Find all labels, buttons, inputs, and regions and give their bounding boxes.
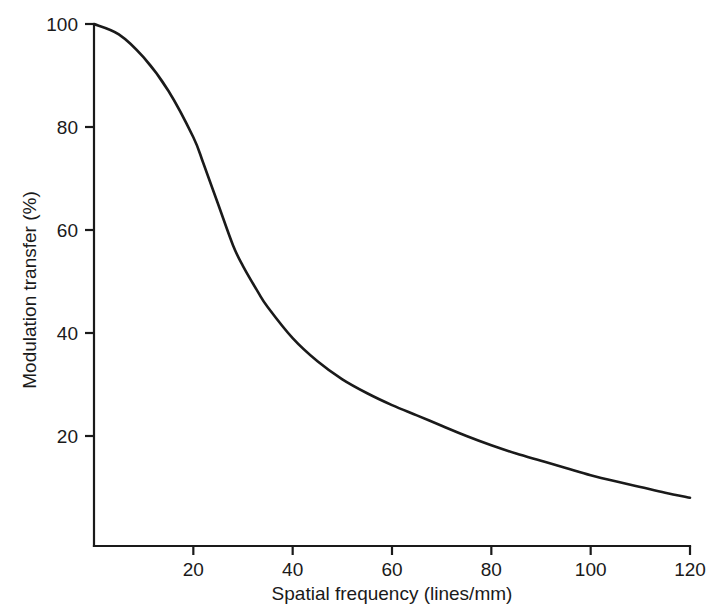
y-tick-label-100: 100 (46, 14, 78, 35)
y-tick-label-20: 20 (57, 426, 78, 447)
data-series-group (94, 24, 690, 498)
x-tick-label-group: 20406080100120 (183, 559, 706, 580)
y-tick-label-80: 80 (57, 117, 78, 138)
x-axis-title: Spatial frequency (lines/mm) (272, 583, 513, 604)
x-tick-label-80: 80 (481, 559, 502, 580)
y-axis-title: Modulation transfer (%) (19, 191, 40, 388)
chart-canvas: 20406080100 20406080100120 Spatial frequ… (0, 0, 724, 616)
data-curve-0 (94, 24, 690, 498)
x-tick-label-40: 40 (282, 559, 303, 580)
x-tick-label-100: 100 (575, 559, 607, 580)
y-tick-label-60: 60 (57, 220, 78, 241)
y-tick-label-group: 20406080100 (46, 14, 78, 447)
y-tick-group (85, 24, 94, 436)
x-tick-label-20: 20 (183, 559, 204, 580)
x-tick-label-60: 60 (381, 559, 402, 580)
mtf-chart-figure: 20406080100 20406080100120 Spatial frequ… (0, 0, 724, 616)
y-tick-label-40: 40 (57, 323, 78, 344)
x-tick-label-120: 120 (674, 559, 706, 580)
x-tick-group (193, 546, 690, 555)
